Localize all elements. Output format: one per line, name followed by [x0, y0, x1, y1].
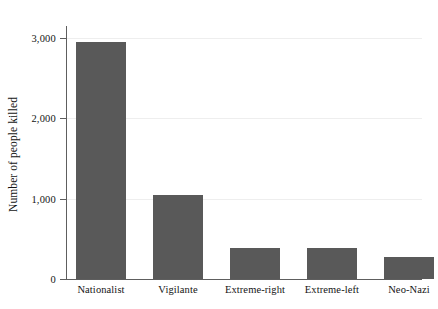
plot-area — [66, 26, 422, 279]
y-axis-tick-label: 3,000 — [31, 33, 56, 44]
bar-chart: Number of people killed 01,0002,0003,000… — [0, 0, 438, 309]
gridline — [66, 38, 422, 39]
y-axis-title: Number of people killed — [0, 0, 26, 309]
x-axis-line — [66, 279, 422, 280]
y-axis-tick-label: 0 — [51, 274, 56, 285]
x-axis-category-label: Neo-Nazi — [349, 284, 438, 295]
y-axis-tick-mark — [60, 199, 66, 200]
bar — [384, 257, 434, 279]
y-axis-tick-label: 2,000 — [31, 113, 56, 124]
y-axis-tick-mark — [60, 279, 66, 280]
y-axis-tick-mark — [60, 38, 66, 39]
bar — [153, 195, 203, 279]
bar — [307, 248, 357, 279]
y-axis-tick-label: 1,000 — [31, 193, 56, 204]
y-axis-tick-mark — [60, 118, 66, 119]
y-axis-line — [66, 26, 67, 279]
bar — [76, 42, 126, 279]
bar — [230, 248, 280, 279]
